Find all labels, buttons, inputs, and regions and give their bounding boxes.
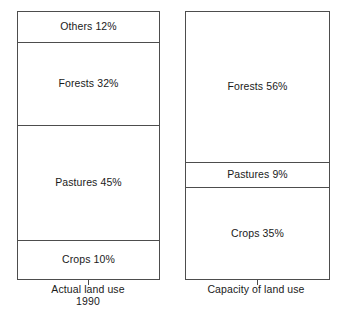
segment-pastures: Pastures 9% (186, 163, 329, 188)
segment-pastures: Pastures 45% (18, 126, 159, 241)
stacked-bar-capacity: Forests 56% Pastures 9% Crops 35% (185, 11, 330, 280)
land-use-stacked-bar-figure: Others 12% Forests 32% Pastures 45% Crop… (0, 0, 344, 314)
segment-label-crops: Crops 10% (62, 254, 115, 266)
chart-actual-land-use: Others 12% Forests 32% Pastures 45% Crop… (0, 0, 176, 314)
segment-label-pastures: Pastures 9% (227, 169, 288, 181)
segment-crops: Crops 10% (18, 241, 159, 279)
segment-label-others: Others 12% (60, 21, 116, 33)
segment-crops: Crops 35% (186, 188, 329, 279)
segment-others: Others 12% (18, 12, 159, 43)
segment-label-forests: Forests 32% (58, 78, 118, 90)
caption-line-1: Actual land use (51, 283, 124, 295)
stacked-bar-actual: Others 12% Forests 32% Pastures 45% Crop… (17, 11, 160, 280)
segment-label-forests: Forests 56% (227, 81, 287, 93)
segment-label-pastures: Pastures 45% (55, 177, 122, 189)
caption-actual-land-use: Actual land use 1990 (0, 283, 176, 307)
caption-line-1: Capacity of land use (207, 283, 304, 295)
chart-capacity-of-land-use: Forests 56% Pastures 9% Crops 35% Capaci… (168, 0, 344, 314)
segment-forests: Forests 56% (186, 12, 329, 163)
caption-capacity-of-land-use: Capacity of land use (168, 283, 344, 295)
caption-line-2: 1990 (0, 295, 176, 307)
segment-label-crops: Crops 35% (231, 228, 284, 240)
segment-forests: Forests 32% (18, 43, 159, 125)
